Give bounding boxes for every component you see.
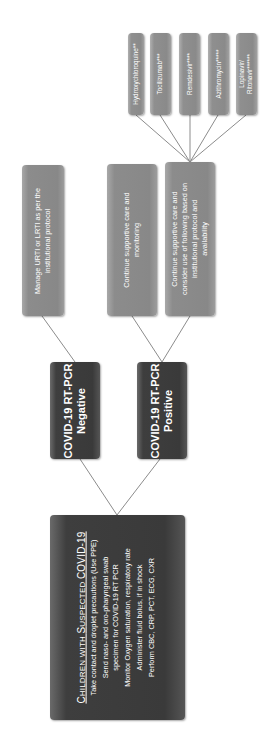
consider-treatment-text: Continue supportive care and consider us… xyxy=(170,183,210,295)
drug-box-remdesivir: Remdesivir**** xyxy=(179,33,200,115)
root-line-swab-2: specimen for COVID-19 RT PCR xyxy=(111,564,120,670)
supportive-line1: Continue supportive care and xyxy=(122,192,132,287)
consider-line3: institutional protocol and xyxy=(190,183,200,295)
manage-urti-lrti-box: Manage URTI or LRTI as per the instituti… xyxy=(22,165,64,316)
continue-supportive-care-text: Continue supportive care and monitoring xyxy=(122,192,142,287)
pcr-negative-box: COVID-19 RT-PCR Negative xyxy=(50,362,100,459)
continue-supportive-care-box: Continue supportive care and monitoring xyxy=(107,164,157,316)
drug-name: Hydroxychloroquine** xyxy=(132,43,140,104)
manage-line2: institutional protocol xyxy=(43,188,53,294)
drug-text: Hydroxychloroquine** xyxy=(132,43,140,104)
root-box-content: CHILDREN WITH SUSPECTED COVID-19 Take co… xyxy=(76,531,159,703)
consider-line2: consider use of following based on xyxy=(180,183,190,295)
title-part: C xyxy=(76,696,87,703)
root-line-labs: Perform CBC, CRP, PCT, ECG, CXR xyxy=(147,531,157,703)
pcr-positive-text: COVID-19 RT-PCR Positive xyxy=(149,363,175,458)
pcr-negative-line1: COVID-19 RT-PCR xyxy=(62,363,75,458)
drug-name: Remdesivir**** xyxy=(186,53,194,95)
pcr-negative-line2: Negative xyxy=(75,363,88,458)
drug-box-tocilizumab: Tocilizumab*** xyxy=(150,33,171,115)
drug-box-lopinavir-ritonavir: Lopinavir/ Ritonavir****** xyxy=(236,33,257,115)
pcr-positive-box: COVID-19 RT-PCR Positive xyxy=(137,362,187,459)
drug-text: Tocilizumab*** xyxy=(157,54,165,95)
root-line-swab: Send naso- and oro-pharyngeal swabspecim… xyxy=(101,531,121,703)
consider-line1: Continue supportive care and xyxy=(170,183,180,295)
drug-box-hydroxychloroquine: Hydroxychloroquine** xyxy=(128,33,144,115)
drug-name: Azithromycin***** xyxy=(215,49,223,98)
manage-urti-lrti-text: Manage URTI or LRTI as per the instituti… xyxy=(33,188,53,294)
title-part: COVID-19 xyxy=(76,531,87,579)
drug-text: Azithromycin***** xyxy=(215,49,223,98)
root-line-monitor: Monitor Oxygen saturation, respiratory r… xyxy=(123,531,133,703)
pcr-positive-line1: COVID-19 RT-PCR xyxy=(149,363,162,458)
title-part: HILDREN WITH xyxy=(78,634,87,697)
drug-name: Tocilizumab*** xyxy=(157,54,165,95)
drug-box-azithromycin: Azithromycin***** xyxy=(208,33,229,115)
flowchart: CHILDREN WITH SUSPECTED COVID-19 Take co… xyxy=(0,0,261,745)
manage-line1: Manage URTI or LRTI as per the xyxy=(33,188,43,294)
title-part: USPECTED xyxy=(78,579,87,627)
root-title: CHILDREN WITH SUSPECTED COVID-19 xyxy=(76,531,87,703)
root-line-precautions: Take contact and droplet precautions (Us… xyxy=(89,531,99,703)
root-line-swab-1: Send naso- and oro-pharyngeal swab xyxy=(101,557,110,679)
title-part: S xyxy=(76,627,87,634)
consider-treatment-box: Continue supportive care and consider us… xyxy=(165,162,215,316)
pcr-positive-line2: Positive xyxy=(162,363,175,458)
drug-text: Lopinavir/ Ritonavir****** xyxy=(239,54,255,94)
supportive-line2: monitoring xyxy=(132,192,142,287)
root-box-children-suspected-covid: CHILDREN WITH SUSPECTED COVID-19 Take co… xyxy=(50,515,185,720)
root-line-fluid: Administer fluid bolus, if in shock xyxy=(135,531,145,703)
pcr-negative-text: COVID-19 RT-PCR Negative xyxy=(62,363,88,458)
drug-name-line2: Ritonavir****** xyxy=(247,54,255,94)
consider-line4: availability xyxy=(200,183,210,295)
drug-text: Remdesivir**** xyxy=(186,53,194,95)
